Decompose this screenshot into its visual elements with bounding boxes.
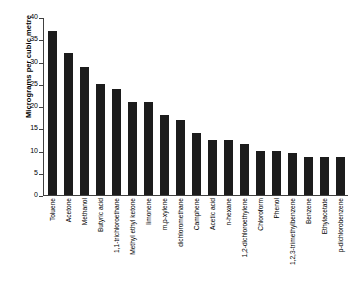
y-tick-label: 35 xyxy=(18,35,38,42)
bar-slot xyxy=(332,18,348,195)
bar xyxy=(192,133,201,195)
x-axis-category-label: m,p-xylene xyxy=(161,198,168,230)
bar xyxy=(176,120,185,195)
x-axis-category-label: 1,1-trichloroethane xyxy=(113,198,120,253)
bar xyxy=(80,67,89,195)
bar-chart: Micrograms per cubic metre 0510152025303… xyxy=(0,0,355,291)
y-tick-label: 20 xyxy=(18,102,38,109)
y-tick-label: 40 xyxy=(18,13,38,20)
y-tick-mark xyxy=(39,18,43,19)
y-tick-label: 25 xyxy=(18,80,38,87)
x-axis-category-label: Methyl ethyl ketone xyxy=(129,198,136,255)
y-tick-mark xyxy=(39,174,43,175)
y-tick-mark xyxy=(39,40,43,41)
bar xyxy=(224,140,233,195)
bar xyxy=(320,157,329,195)
bar xyxy=(160,115,169,195)
bar-slot xyxy=(92,18,108,195)
bar xyxy=(144,102,153,195)
bar-slot xyxy=(220,18,236,195)
bar xyxy=(256,151,265,195)
y-tick-mark xyxy=(39,152,43,153)
bar-slot xyxy=(236,18,252,195)
x-axis-category-label: 1,2,3-trimethylbenzene xyxy=(289,198,296,265)
x-axis-category-label: Butyric acid xyxy=(97,198,104,232)
x-label-slot: Methyl ethyl ketone xyxy=(124,198,140,290)
bar xyxy=(128,102,137,195)
bar-slot xyxy=(140,18,156,195)
x-axis-category-label: Acetone xyxy=(65,198,72,222)
x-label-slot: Benzene xyxy=(300,198,316,290)
bar-slot xyxy=(300,18,316,195)
x-axis-category-label: Chloroform xyxy=(257,198,264,231)
y-tick-label: 10 xyxy=(18,147,38,154)
bar-slot xyxy=(252,18,268,195)
y-tick-mark xyxy=(39,85,43,86)
x-label-slot: 1,2,3-trimethylbenzene xyxy=(284,198,300,290)
bar-slot xyxy=(124,18,140,195)
x-axis-category-label: limonene xyxy=(145,198,152,225)
bar-slot xyxy=(316,18,332,195)
bar-slot xyxy=(44,18,60,195)
x-axis-category-label: Ethylacetate xyxy=(321,198,328,234)
bar-slot xyxy=(60,18,76,195)
bar-slot xyxy=(76,18,92,195)
x-axis-category-label: Camphene xyxy=(193,198,200,230)
x-axis-category-label: 1,2-dichloroethylene xyxy=(241,198,248,257)
y-tick-mark xyxy=(39,63,43,64)
bar xyxy=(336,157,345,195)
x-label-slot: 1,1-trichloroethane xyxy=(108,198,124,290)
x-label-slot: Ethylacetate xyxy=(316,198,332,290)
bar xyxy=(208,140,217,195)
x-label-slot: m,p-xylene xyxy=(156,198,172,290)
x-axis-category-label: Acetic acid xyxy=(209,198,216,230)
x-axis-category-label: Methanol xyxy=(81,198,88,225)
bar xyxy=(304,157,313,195)
plot-area: 0510152025303540 xyxy=(43,18,348,196)
y-tick-mark xyxy=(39,196,43,197)
x-label-slot: Butyric acid xyxy=(92,198,108,290)
x-label-slot: Acetone xyxy=(60,198,76,290)
bar-slot xyxy=(268,18,284,195)
x-label-slot: n-hexane xyxy=(220,198,236,290)
x-label-slot: Acetic acid xyxy=(204,198,220,290)
x-axis-category-label: Benzene xyxy=(305,198,312,224)
bar xyxy=(96,84,105,195)
x-axis-labels: TolueneAcetoneMethanolButyric acid1,1-tr… xyxy=(44,198,348,290)
bar xyxy=(64,53,73,195)
y-tick-mark xyxy=(39,107,43,108)
y-tick-mark xyxy=(39,129,43,130)
x-label-slot: Phenol xyxy=(268,198,284,290)
x-axis-category-label: Toluene xyxy=(49,198,56,221)
x-label-slot: Camphene xyxy=(188,198,204,290)
x-axis-category-label: dichloromethane xyxy=(177,198,184,247)
y-tick-label: 15 xyxy=(18,124,38,131)
x-label-slot: Chloroform xyxy=(252,198,268,290)
bar xyxy=(112,89,121,195)
bar xyxy=(240,144,249,195)
x-axis-category-label: p-dichlorobenzene xyxy=(337,198,344,252)
x-label-slot: Toluene xyxy=(44,198,60,290)
x-label-slot: Methanol xyxy=(76,198,92,290)
x-label-slot: dichloromethane xyxy=(172,198,188,290)
bar-slot xyxy=(156,18,172,195)
bar-slot xyxy=(108,18,124,195)
bar xyxy=(288,153,297,195)
x-label-slot: limonene xyxy=(140,198,156,290)
bar xyxy=(48,31,57,195)
bar-slot xyxy=(172,18,188,195)
bar-slot xyxy=(204,18,220,195)
y-tick-label: 30 xyxy=(18,58,38,65)
bar-slot xyxy=(284,18,300,195)
bar-slot xyxy=(188,18,204,195)
y-tick-label: 0 xyxy=(18,191,38,198)
x-axis-category-label: Phenol xyxy=(273,198,280,219)
bar-series xyxy=(44,18,348,195)
bar xyxy=(272,151,281,195)
x-label-slot: p-dichlorobenzene xyxy=(332,198,348,290)
x-label-slot: 1,2-dichloroethylene xyxy=(236,198,252,290)
y-tick-label: 5 xyxy=(18,169,38,176)
x-axis-category-label: n-hexane xyxy=(225,198,232,226)
